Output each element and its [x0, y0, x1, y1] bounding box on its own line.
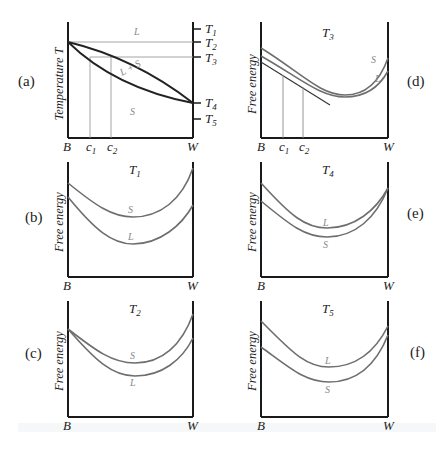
y-axis-label: Free energy — [52, 192, 66, 253]
panel-title: T5 — [322, 301, 334, 318]
curve-label-s: S — [130, 350, 135, 361]
x-label-c1: c1 — [279, 139, 289, 156]
panel-b-tag: (b) — [25, 209, 43, 226]
y-axis-label: Free energy — [52, 331, 66, 392]
x-label-c2: c2 — [107, 139, 118, 156]
y-axis-label: Free energy — [245, 331, 259, 392]
label-t5: T5 — [205, 111, 217, 128]
label-t3: T3 — [205, 50, 217, 67]
curve-label-l: L — [127, 231, 134, 242]
x-label-w: W — [187, 418, 199, 433]
panel-c-free-energy-t2: (c) Free energy T2 S L B W — [25, 301, 199, 433]
region-two-phase: L + S — [117, 58, 143, 79]
x-label-w: W — [383, 278, 395, 293]
phase-diagram-figure: (a) Temperature T L L + S S T1 T2 T3 T4 … — [0, 0, 445, 449]
panel-title: T1 — [129, 162, 141, 179]
label-t4: T4 — [205, 95, 217, 112]
x-label-b: B — [63, 278, 71, 293]
panel-b-free-energy-t1: (b) Free energy T1 S L B W — [25, 162, 199, 293]
x-label-b: B — [257, 418, 265, 433]
x-label-b: B — [63, 418, 71, 433]
y-axis-label: Free energy — [245, 54, 259, 115]
curve-label-s: S — [128, 204, 133, 215]
x-label-b: B — [63, 139, 71, 154]
panel-f-tag: (f) — [410, 344, 425, 361]
common-tangent-line — [261, 62, 330, 105]
region-solid: S — [130, 106, 135, 117]
x-label-b: B — [257, 278, 265, 293]
panel-d-tag: (d) — [407, 73, 425, 90]
y-axis-label: Temperature T — [52, 46, 66, 120]
x-label-c1: c1 — [86, 139, 96, 156]
x-label-b: B — [257, 139, 265, 154]
panel-c-tag: (c) — [25, 345, 42, 362]
solid-free-energy-curve — [261, 48, 388, 95]
curve-label-l: L — [324, 355, 331, 366]
x-label-w: W — [383, 418, 395, 433]
panel-f-free-energy-t5: (f) Free energy T5 L S B W — [245, 301, 425, 433]
x-label-w: W — [187, 139, 199, 154]
y-axis-label: Free energy — [245, 192, 259, 253]
curve-label-l: L — [322, 217, 329, 228]
x-label-c2: c2 — [299, 139, 310, 156]
panel-e-tag: (e) — [407, 205, 424, 222]
curve-label-s: S — [323, 239, 328, 250]
x-label-w: W — [383, 139, 395, 154]
region-liquid: L — [133, 26, 140, 37]
panel-title: T4 — [322, 162, 334, 179]
curve-label-s: S — [325, 384, 330, 395]
panel-title: T3 — [322, 25, 334, 42]
panel-e-free-energy-t4: (e) Free energy T4 L S B W — [245, 162, 424, 293]
curve-label-l: L — [374, 73, 381, 84]
curve-label-s: S — [371, 54, 376, 65]
panel-a-tag: (a) — [18, 73, 35, 90]
panel-title: T2 — [129, 301, 141, 318]
x-label-w: W — [187, 278, 199, 293]
curve-label-l: L — [129, 377, 136, 388]
panel-d-free-energy-t3: (d) Free energy T3 S L B W c1 c2 — [245, 22, 425, 156]
panel-a-phase-diagram: (a) Temperature T L L + S S T1 T2 T3 T4 … — [18, 21, 217, 156]
